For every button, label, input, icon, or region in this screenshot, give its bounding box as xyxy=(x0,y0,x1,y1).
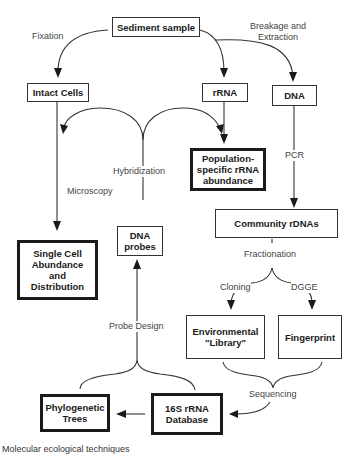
label-cloning: Cloning xyxy=(220,282,251,293)
sequencing-connector xyxy=(236,402,270,414)
arrowhead-dna-probes xyxy=(133,259,141,269)
node-community-rdnas: Community rDNAs xyxy=(215,209,338,238)
node-fingerprint: Fingerprint xyxy=(278,315,342,359)
label-breakage-extraction: Breakage and Extraction xyxy=(250,21,306,43)
fixation-connector xyxy=(58,30,108,72)
arrowhead-environmental xyxy=(227,300,235,310)
label-hybridization: Hybridization xyxy=(113,166,165,177)
arrowhead-dna xyxy=(289,72,297,82)
node-dna-probes: DNA probes xyxy=(117,226,163,256)
sequencing-brace xyxy=(223,362,322,388)
arrowhead-rrna xyxy=(220,68,228,78)
rrna-connector xyxy=(200,30,224,72)
hybridization-right-curve xyxy=(143,108,220,140)
node-sediment-sample: Sediment sample xyxy=(112,17,200,37)
node-phylogenetic-trees: Phylogenetic Trees xyxy=(40,394,110,432)
node-dna: DNA xyxy=(272,85,317,106)
arrowhead-community xyxy=(290,198,298,208)
node-environmental-library: Environmental "Library" xyxy=(186,315,265,359)
label-probe-design: Probe Design xyxy=(109,321,164,332)
node-intact-cells: Intact Cells xyxy=(27,83,89,102)
label-fractionation: Fractionation xyxy=(244,249,296,260)
arrowhead-trees xyxy=(116,410,126,418)
label-microscopy: Microscopy xyxy=(67,186,113,197)
label-dgge: DGGE xyxy=(291,282,318,293)
arrowhead-hybridization-left xyxy=(60,124,68,134)
label-pcr: PCR xyxy=(285,150,304,161)
probe-design-brace xyxy=(80,360,195,390)
arrowhead-population xyxy=(220,134,228,144)
arrowhead-fingerprint xyxy=(308,300,316,310)
node-single-cell-abundance: Single Cell Abundance and Distribution xyxy=(17,240,98,300)
node-population-specific-rrna-abundance: Population- specific rRNA abundance xyxy=(190,148,266,191)
label-fixation: Fixation xyxy=(32,31,64,42)
arrowhead-hybridization-right xyxy=(216,124,224,134)
node-16s-rrna-database: 16S rRNA Database xyxy=(151,393,223,435)
figure-caption: Molecular ecological techniques xyxy=(2,444,130,454)
arrowhead-intact-cells xyxy=(54,68,62,78)
arrowhead-database xyxy=(229,410,238,418)
arrowhead-single-cell xyxy=(53,221,61,231)
node-rrna: rRNA xyxy=(202,83,248,102)
label-sequencing: Sequencing xyxy=(249,389,297,400)
